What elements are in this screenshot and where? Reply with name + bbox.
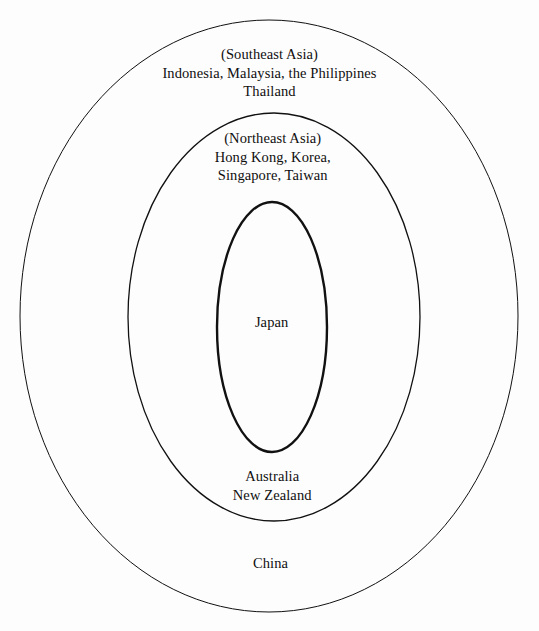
label-china: China — [161, 554, 381, 573]
label-southeast-asia: (Southeast Asia) Indonesia, Malaysia, th… — [60, 45, 480, 101]
label-australia-new-zealand: Australia New Zealand — [142, 467, 402, 504]
diagram-canvas: (Southeast Asia) Indonesia, Malaysia, th… — [0, 0, 539, 631]
label-northeast-asia: (Northeast Asia) Hong Kong, Korea, Singa… — [113, 129, 433, 185]
label-japan: Japan — [192, 313, 352, 332]
